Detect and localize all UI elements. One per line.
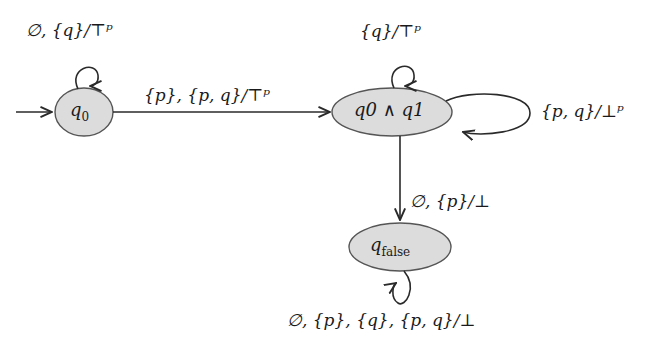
edge-label-q0-to-q0q1: {p}, {p, q}/⊤ᵖ: [144, 87, 270, 104]
edge-q0q1-top-self-loop: [392, 66, 414, 88]
edge-label-q0-self: ∅, {q}/⊤ᵖ: [26, 22, 113, 39]
node-label-q0-and-q1: q0 ∧ q1: [354, 101, 425, 119]
edge-label-q0q1-top-self: {q}/⊤ᵖ: [360, 23, 421, 40]
edge-q0-self-loop: [76, 67, 98, 89]
state-diagram: q0 q0 ∧ q1 qfalse ∅, {q}/⊤ᵖ {p}, {p, q}/…: [0, 0, 660, 341]
node-label-q0: q0: [70, 101, 89, 123]
edge-q0q1-right-self-loop: [446, 94, 530, 134]
diagram-graphics: [0, 0, 660, 341]
edge-label-q0q1-to-qfalse: ∅, {p}/⊥: [410, 193, 490, 210]
node-label-qfalse: qfalse: [370, 236, 410, 258]
edge-qfalse-self-loop: [393, 271, 410, 304]
edge-label-qfalse-self: ∅, {p}, {q}, {p, q}/⊥: [287, 312, 475, 329]
edge-label-q0q1-right-self: {p, q}/⊥ᵖ: [541, 103, 624, 120]
